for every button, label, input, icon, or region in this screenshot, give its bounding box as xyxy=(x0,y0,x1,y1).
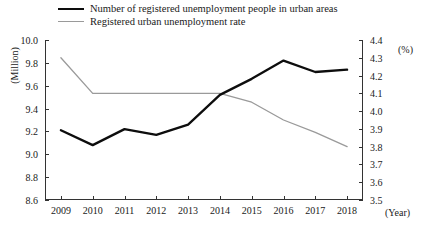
left-axis-tick-label: 8.6 xyxy=(4,200,38,211)
left-axis-tick-label: 9.2 xyxy=(4,131,38,142)
left-axis-tick-label: 9.4 xyxy=(4,109,38,120)
right-axis-tick-label: 4.4 xyxy=(370,40,400,51)
right-axis-tick-label: 4.0 xyxy=(370,111,400,122)
right-axis-unit: (%) xyxy=(398,44,413,55)
line-unemployment-rate xyxy=(61,58,347,147)
right-axis-tick-label: 4.2 xyxy=(370,76,400,87)
chart-legend: Number of registered unemployment people… xyxy=(58,2,338,28)
legend-label-registered-unemployment: Number of registered unemployment people… xyxy=(90,3,338,14)
right-axis-tick-label: 3.8 xyxy=(370,147,400,158)
chart-figure: Number of registered unemployment people… xyxy=(0,0,427,226)
legend-label-unemployment-rate: Registered urban unemployment rate xyxy=(90,16,245,27)
right-axis-tick-label: 3.5 xyxy=(370,200,400,211)
right-axis-tick-label: 4.1 xyxy=(370,93,400,104)
right-axis-tick-label: 3.9 xyxy=(370,129,400,140)
right-axis-tick-label: 3.7 xyxy=(370,164,400,175)
series-lines xyxy=(45,40,363,200)
legend-swatch-gray-line xyxy=(58,21,84,22)
left-axis-tick-label: 10.0 xyxy=(4,40,38,51)
plot-area xyxy=(45,40,363,200)
right-axis-tick-label: 3.6 xyxy=(370,182,400,193)
legend-swatch-black-line xyxy=(58,8,84,10)
legend-entry-registered-unemployment: Number of registered unemployment people… xyxy=(58,2,338,15)
left-axis-tick-label: 8.8 xyxy=(4,177,38,188)
right-axis-tick-label: 4.3 xyxy=(370,58,400,69)
axis-tick-mark xyxy=(45,200,49,201)
left-axis-tick-label: 9.6 xyxy=(4,86,38,97)
axis-tick-mark xyxy=(359,200,363,201)
x-axis-tick-label: 2018 xyxy=(327,205,367,216)
legend-entry-unemployment-rate: Registered urban unemployment rate xyxy=(58,15,338,28)
line-registered-unemployment xyxy=(61,61,347,146)
left-axis-tick-label: 9.8 xyxy=(4,63,38,74)
left-axis-tick-label: 9.0 xyxy=(4,154,38,165)
